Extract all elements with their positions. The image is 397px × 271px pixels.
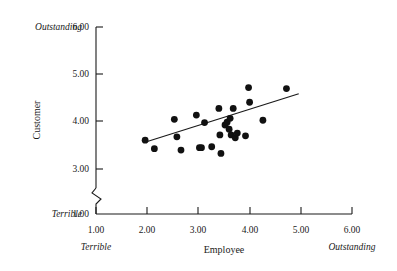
y-tick-label-3: 3.00 bbox=[72, 164, 89, 174]
x-axis-high-anchor-label: Outstanding bbox=[329, 242, 376, 252]
data-point bbox=[242, 132, 249, 139]
data-point bbox=[201, 119, 208, 126]
x-tick-label-6: 6.00 bbox=[344, 225, 361, 235]
data-point bbox=[178, 147, 185, 154]
x-tick-label-3: 3.00 bbox=[190, 225, 207, 235]
data-point bbox=[215, 105, 222, 112]
y-axis-ticks bbox=[96, 27, 103, 169]
scatter-chart: 6.00 5.00 4.00 3.00 1.00 1.00 2.00 3.00 … bbox=[0, 0, 397, 271]
y-axis-title: Customer bbox=[31, 100, 42, 140]
x-tick-label-1: 1.00 bbox=[88, 225, 105, 235]
data-point bbox=[142, 137, 149, 144]
y-axis-low-anchor-label: Terrible bbox=[52, 209, 82, 219]
data-point bbox=[234, 130, 241, 137]
chart-canvas: 6.00 5.00 4.00 3.00 1.00 1.00 2.00 3.00 … bbox=[0, 0, 397, 271]
x-tick-label-5: 5.00 bbox=[293, 225, 310, 235]
data-point bbox=[260, 117, 267, 124]
data-point bbox=[173, 133, 180, 140]
y-tick-label-4: 4.00 bbox=[72, 116, 89, 126]
data-point bbox=[246, 99, 253, 106]
y-tick-label-5: 5.00 bbox=[72, 69, 89, 79]
data-point bbox=[283, 85, 290, 92]
x-axis-low-anchor-label: Terrible bbox=[81, 242, 111, 252]
x-tick-label-2: 2.00 bbox=[139, 225, 156, 235]
x-axis-title: Employee bbox=[204, 244, 245, 255]
y-axis-high-anchor-label: Outstanding bbox=[35, 22, 82, 32]
data-point bbox=[208, 143, 215, 150]
data-point bbox=[171, 116, 178, 123]
data-point bbox=[193, 112, 200, 119]
data-point bbox=[230, 105, 237, 112]
x-tick-label-4: 4.00 bbox=[242, 225, 259, 235]
data-point bbox=[245, 84, 252, 91]
x-axis-ticks bbox=[96, 207, 352, 214]
data-point bbox=[218, 150, 225, 157]
data-point bbox=[217, 132, 224, 139]
data-point bbox=[151, 145, 158, 152]
data-point bbox=[227, 115, 234, 122]
data-point bbox=[198, 144, 205, 151]
